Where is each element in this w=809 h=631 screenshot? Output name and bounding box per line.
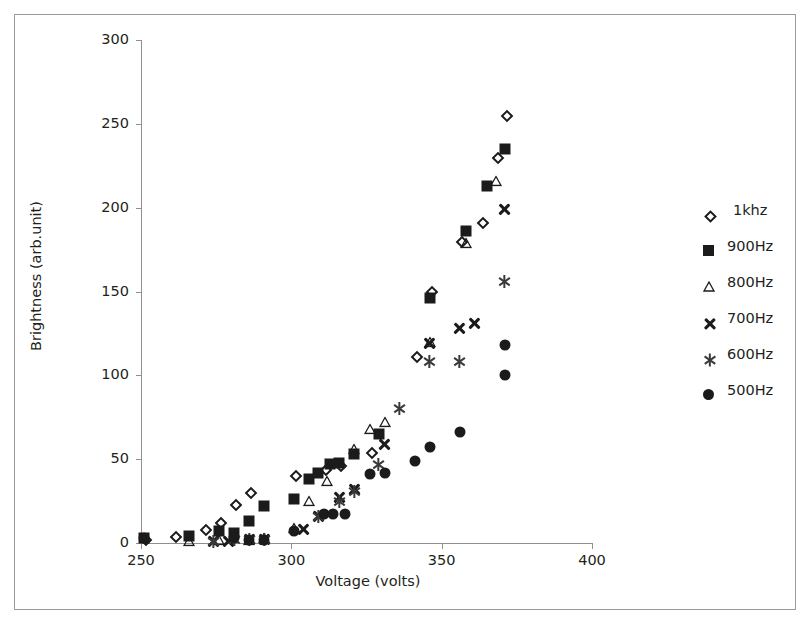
legend-item-500hz[interactable]: 500Hz — [686, 380, 796, 416]
marker-filled-circle-icon — [499, 370, 510, 381]
legend-label: 700Hz — [727, 310, 773, 326]
legend-label: 600Hz — [727, 346, 773, 362]
scatter-plot: 050100150200250300 250300350400 Voltage … — [0, 0, 809, 631]
legend-item-600hz[interactable]: 600Hz — [686, 344, 796, 380]
marker-filled-square-icon — [703, 245, 714, 256]
legend-marker — [703, 353, 716, 366]
chart-page: 050100150200250300 250300350400 Voltage … — [0, 0, 809, 631]
y-axis-title: Brightness (arb.unit) — [28, 176, 44, 376]
legend-marker — [703, 281, 715, 292]
marker-filled-circle-icon — [229, 532, 240, 543]
legend-marker — [703, 245, 714, 256]
legend-marker — [703, 389, 714, 400]
marker-filled-circle-icon — [424, 442, 435, 453]
marker-asterisk-icon — [703, 353, 716, 366]
legend-item-1khz[interactable]: 1khz — [686, 200, 796, 236]
marker-filled-circle-icon — [703, 389, 714, 400]
legend-marker — [703, 209, 714, 223]
x-axis-title: Voltage (volts) — [248, 573, 488, 589]
marker-filled-circle-icon — [328, 509, 339, 520]
legend-marker — [703, 317, 716, 330]
legend-label: 1khz — [733, 202, 767, 218]
marker-filled-circle-icon — [340, 509, 351, 520]
marker-filled-circle-icon — [289, 526, 300, 537]
legend-item-900hz[interactable]: 900Hz — [686, 236, 796, 272]
marker-open-diamond-icon — [703, 212, 714, 223]
marker-filled-circle-icon — [379, 467, 390, 478]
marker-filled-circle-icon — [409, 455, 420, 466]
legend-label: 800Hz — [727, 274, 773, 290]
legend-label: 900Hz — [727, 238, 773, 254]
legend-label: 500Hz — [727, 382, 773, 398]
marker-filled-circle-icon — [364, 469, 375, 480]
legend-item-800hz[interactable]: 800Hz — [686, 272, 796, 308]
marker-filled-circle-icon — [139, 532, 150, 543]
marker-filled-circle-icon — [454, 427, 465, 438]
marker-open-triangle-icon — [703, 281, 715, 292]
chart-legend: 1khz900Hz800Hz700Hz600Hz500Hz — [686, 200, 796, 416]
legend-item-700hz[interactable]: 700Hz — [686, 308, 796, 344]
marker-filled-circle-icon — [259, 534, 270, 545]
marker-bold-x-icon — [703, 317, 716, 330]
marker-filled-circle-icon — [319, 509, 330, 520]
marker-filled-circle-icon — [244, 534, 255, 545]
marker-filled-circle-icon — [499, 340, 510, 351]
